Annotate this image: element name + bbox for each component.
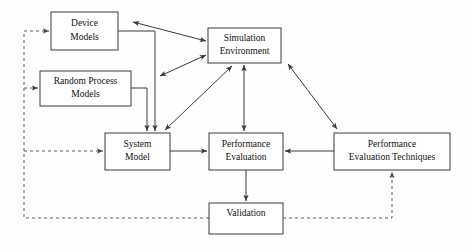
edge-random-process-models-to-system-model	[131, 88, 147, 131]
system-model-label-line-1: System	[124, 139, 153, 149]
flow-diagram-svg: Device Models Random Process Models Simu…	[0, 0, 468, 250]
system-model-label-line-2: Model	[125, 152, 150, 162]
edge-simulation-environment-to-model-junction	[160, 55, 206, 76]
node-system-model[interactable]: System Model	[105, 133, 170, 170]
edge-validation-feedback-bus	[24, 31, 209, 218]
node-performance-evaluation-techniques[interactable]: Performance Evaluation Techniques	[334, 133, 450, 170]
device-models-label-line-1: Device	[71, 18, 98, 28]
performance-evaluation-techniques-label-line-1: Performance	[368, 139, 417, 149]
device-models-label-line-2: Models	[70, 32, 99, 42]
performance-evaluation-label-line-2: Evaluation	[225, 152, 266, 162]
simulation-environment-label-line-1: Simulation	[224, 33, 266, 43]
node-random-process-models[interactable]: Random Process Models	[40, 71, 131, 106]
performance-evaluation-label-line-1: Performance	[222, 139, 271, 149]
validation-label: Validation	[226, 208, 265, 218]
diagram-canvas: Device Models Random Process Models Simu…	[0, 0, 468, 250]
node-performance-evaluation[interactable]: Performance Evaluation	[209, 133, 283, 170]
performance-evaluation-techniques-label-line-2: Evaluation Techniques	[349, 152, 436, 162]
edge-validation-to-performance-evaluation-techniques	[283, 172, 392, 218]
random-process-models-label-line-1: Random Process	[54, 76, 118, 86]
simulation-environment-label-line-2: Environment	[220, 46, 270, 56]
node-simulation-environment[interactable]: Simulation Environment	[208, 28, 281, 63]
edge-simulation-environment-to-performance-evaluation-techniques	[288, 64, 337, 129]
edge-system-model-to-simulation-environment	[165, 66, 232, 130]
random-process-models-label-line-2: Models	[71, 89, 100, 99]
node-validation[interactable]: Validation	[209, 203, 283, 234]
node-device-models[interactable]: Device Models	[51, 12, 118, 50]
